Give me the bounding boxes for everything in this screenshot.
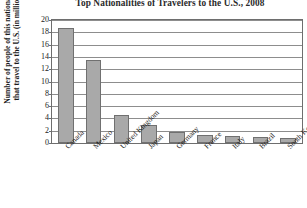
y-axis-tick-labels: 20181614121086420 [29,19,49,144]
y-tick-mark [49,32,52,33]
y-tick-label: 16 [33,41,49,49]
y-axis-title: Number of people of this nationality tha… [3,0,21,106]
y-tick-label: 12 [33,65,49,73]
y-tick-label: 20 [33,16,49,24]
y-tick-mark [49,20,52,21]
y-tick-label: 2 [33,127,49,135]
y-tick-mark [49,57,52,58]
y-tick-label: 18 [33,28,49,36]
y-tick-mark [49,118,52,119]
y-tick-label: 6 [33,102,49,110]
chart-title: Top Nationalities of Travelers to the U.… [34,0,306,8]
y-tick-mark [49,143,52,144]
y-tick-mark [49,94,52,95]
y-tick-mark [49,82,52,83]
y-tick-mark [49,106,52,107]
x-axis-tick-labels: CanadaMexicoUnited KingdomJapanGermanyFr… [52,145,302,208]
y-tick-label: 14 [33,53,49,61]
y-tick-label: 0 [33,139,49,147]
y-tick-mark [49,69,52,70]
y-tick-mark [49,45,52,46]
y-tick-label: 10 [33,78,49,86]
bar-mexico [86,60,102,143]
y-tick-label: 8 [33,90,49,98]
bar-series [52,20,302,143]
y-tick-label: 4 [33,114,49,122]
bar-canada [58,28,74,143]
y-tick-mark [49,131,52,132]
chart-container: Top Nationalities of Travelers to the U.… [0,0,307,208]
